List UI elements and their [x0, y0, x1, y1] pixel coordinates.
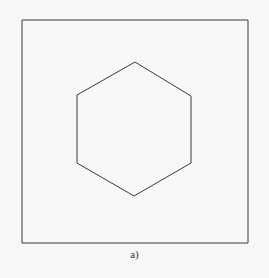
hexagon-shape — [77, 62, 191, 196]
square-frame — [22, 20, 248, 243]
figure-caption: a) — [0, 248, 269, 260]
diagram-canvas — [0, 0, 269, 278]
